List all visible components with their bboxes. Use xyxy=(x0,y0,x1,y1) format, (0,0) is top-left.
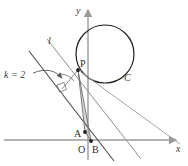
k-value-label: k = 2 xyxy=(4,69,25,80)
line-l xyxy=(47,39,141,159)
line-k xyxy=(29,51,114,161)
x-axis-label: x xyxy=(175,143,181,154)
geometry-canvas: x y C l k = 2 P A B xyxy=(0,0,188,166)
right-angle-marker xyxy=(57,83,67,93)
origin-label: O xyxy=(78,144,85,155)
point-b-dot xyxy=(89,139,93,143)
geometry-figure: x y C l k = 2 P A B xyxy=(0,0,188,166)
point-b-label: B xyxy=(92,144,99,155)
y-axis-label: y xyxy=(75,5,81,16)
point-a-dot xyxy=(83,130,87,134)
point-p-label: P xyxy=(80,58,86,69)
line-l-label: l xyxy=(48,35,51,46)
circle-c-label: C xyxy=(124,72,131,83)
segment-perpendicular xyxy=(62,70,78,89)
point-a-label: A xyxy=(74,128,82,139)
